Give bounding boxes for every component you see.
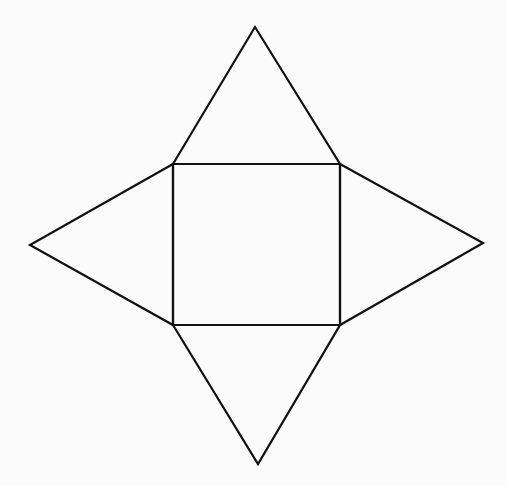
square-pyramid-net [0, 0, 507, 486]
background [0, 0, 507, 486]
diagram-canvas [0, 0, 507, 486]
